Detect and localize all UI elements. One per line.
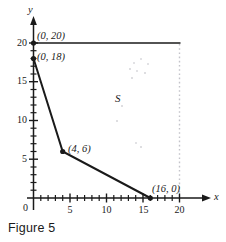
scan-artifact-speck	[140, 146, 142, 148]
scan-artifact-speck	[144, 72, 146, 74]
point-label-0-20: (0, 20)	[37, 31, 65, 42]
y-tick-label-5: 5	[10, 154, 27, 164]
scan-artifact-speck	[136, 70, 138, 72]
boundary-line-lower	[34, 59, 151, 199]
scan-artifact-speck	[121, 105, 123, 107]
x-axis-label: x	[214, 192, 219, 203]
scan-artifact-speck	[133, 62, 135, 64]
figure-5-container: 20 15 10 5 0 5 10 15 20 y x (0, 20) (0, …	[0, 0, 226, 242]
x-axis-arrowhead	[202, 195, 211, 202]
scan-artifact-speck	[147, 63, 149, 65]
point-label-0-18: (0, 18)	[37, 52, 65, 63]
point-marker-16-0	[148, 195, 153, 200]
point-marker-4-6	[60, 149, 65, 154]
origin-label: 0	[18, 203, 28, 213]
point-marker-0-20	[31, 40, 36, 45]
y-tick-label-10: 10	[10, 115, 27, 125]
y-axis-label: y	[28, 5, 33, 16]
x-tick-label-5: 5	[62, 205, 78, 215]
scan-artifact-speck	[129, 68, 131, 70]
x-tick-label-20: 20	[171, 205, 188, 215]
x-tick-label-15: 15	[135, 205, 152, 215]
figure-caption: Figure 5	[8, 221, 55, 235]
point-label-16-0: (16, 0)	[152, 184, 180, 195]
scan-artifact-speck	[140, 58, 142, 60]
region-label-s: S	[115, 93, 121, 104]
point-label-4-6: (4, 6)	[68, 144, 91, 155]
x-tick-label-10: 10	[98, 205, 115, 215]
scan-artifact-speck	[135, 142, 137, 144]
y-axis-arrowhead	[30, 16, 37, 25]
y-tick-label-20: 20	[10, 38, 27, 48]
scan-artifact-speck	[131, 77, 133, 79]
point-marker-0-18	[31, 56, 36, 61]
scan-artifact-speck	[116, 120, 118, 122]
y-tick-label-15: 15	[10, 76, 27, 86]
